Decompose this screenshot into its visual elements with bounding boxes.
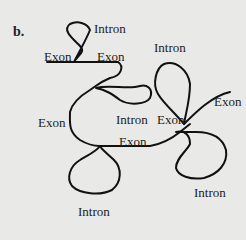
intron-bottom-left-label: Intron <box>78 205 110 218</box>
intron-right-top-label: Intron <box>154 41 186 54</box>
exon-top-left-label: Exon <box>44 50 71 63</box>
exon-right-label: Exon <box>214 95 241 108</box>
intron-loop-bottom-right <box>176 132 226 179</box>
panel-label: b. <box>13 25 24 39</box>
intron-loop-bottom-left <box>69 146 120 193</box>
intron-loop-mid <box>96 86 151 104</box>
intron-mid-label: Intron <box>116 113 148 126</box>
intron-bottom-right-label: Intron <box>194 186 226 199</box>
exon-top-right-label: Exon <box>97 50 124 63</box>
intron-top-label: Intron <box>94 22 126 35</box>
exon-mid-right-label: Exon <box>157 113 184 126</box>
exon-left-mid-label: Exon <box>38 116 65 129</box>
exon-mid-bottom-label: Exon <box>119 135 146 148</box>
